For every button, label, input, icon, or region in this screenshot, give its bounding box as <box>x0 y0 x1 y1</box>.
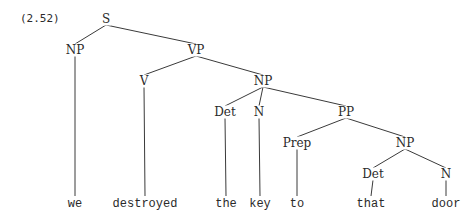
node-pp: PP <box>337 106 355 119</box>
tree-edge-np2-det1 <box>225 87 263 106</box>
node-prep: Prep <box>282 137 313 150</box>
tree-edge-vp-v <box>144 56 196 75</box>
leaf-word-the: the <box>214 198 238 211</box>
tree-edge-np2-pp <box>263 87 346 106</box>
node-v: V <box>139 75 150 88</box>
tree-edge-s-vp <box>106 25 196 44</box>
tree-edge-v-w_destroyed <box>144 87 145 196</box>
tree-edge-det2-w_that <box>371 180 373 196</box>
tree-edge-pp-np3 <box>346 118 405 137</box>
tree-edge-n1-w_key <box>259 118 260 196</box>
leaf-word-to: to <box>289 198 305 211</box>
tree-edge-det1-w_the <box>225 118 226 196</box>
tree-edge-vp-np2 <box>196 56 263 75</box>
leaf-word-key: key <box>248 198 272 211</box>
node-vp: VP <box>187 44 206 57</box>
node-det2: Det <box>361 168 385 181</box>
leaf-word-destroyed: destroyed <box>112 198 179 211</box>
node-np2: NP <box>253 75 274 88</box>
node-s: S <box>101 13 111 26</box>
tree-edge-s-np1 <box>75 25 106 44</box>
leaf-word-we: we <box>67 198 83 211</box>
tree-edge-np3-det2 <box>373 149 405 168</box>
tree-edge-np3-n2 <box>405 149 446 168</box>
tree-edge-pp-prep <box>297 118 346 137</box>
node-det1: Det <box>213 106 237 119</box>
leaf-word-door: door <box>431 198 462 211</box>
node-n1: N <box>253 106 266 119</box>
node-n2: N <box>440 168 453 181</box>
node-np1: NP <box>65 44 86 57</box>
syntax-tree-edges <box>0 0 476 219</box>
node-np3: NP <box>395 137 416 150</box>
leaf-word-that: that <box>356 198 387 211</box>
tree-edge-np2-n1 <box>259 87 263 106</box>
